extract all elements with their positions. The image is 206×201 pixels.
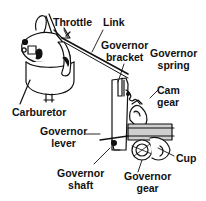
label-governor-spring-line2: spring bbox=[150, 59, 197, 71]
label-governor-gear-line2: gear bbox=[124, 182, 171, 194]
label-link: Link bbox=[103, 16, 125, 28]
label-cam-gear-line2: gear bbox=[157, 96, 180, 108]
label-governor-lever-line1: Governor bbox=[40, 125, 87, 137]
label-governor-gear-line1: Governor bbox=[124, 170, 171, 182]
label-governor-spring: Governor spring bbox=[150, 47, 197, 71]
label-governor-lever-line2: lever bbox=[40, 137, 87, 149]
label-throttle: Throttle bbox=[53, 16, 92, 28]
label-governor-shaft: Governor shaft bbox=[57, 167, 104, 191]
label-governor-shaft-line2: shaft bbox=[57, 179, 104, 191]
governor-gear-drawing bbox=[86, 124, 174, 172]
label-governor-bracket-line1: Governor bbox=[101, 39, 148, 51]
label-cam-gear: Cam gear bbox=[157, 84, 180, 108]
label-governor-bracket: Governor bracket bbox=[101, 39, 148, 63]
label-governor-lever: Governor lever bbox=[40, 125, 87, 149]
cam-gear-drawing bbox=[130, 90, 158, 126]
label-governor-shaft-line1: Governor bbox=[57, 167, 104, 179]
label-carburetor: Carburetor bbox=[12, 106, 66, 118]
label-cam-gear-line1: Cam bbox=[157, 84, 180, 96]
label-governor-gear: Governor gear bbox=[124, 170, 171, 194]
label-governor-bracket-line2: bracket bbox=[101, 51, 148, 63]
label-cup: Cup bbox=[176, 152, 196, 164]
label-governor-spring-line1: Governor bbox=[150, 47, 197, 59]
